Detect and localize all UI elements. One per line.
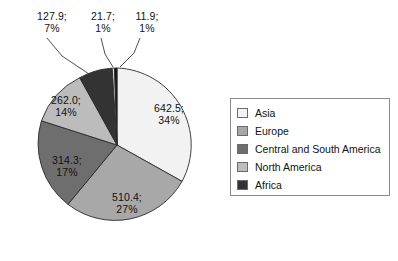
leader-line-middle-east	[120, 38, 140, 67]
legend-label-africa: Africa	[255, 179, 282, 191]
slice-label-middle-east-value: 11.9;	[135, 10, 158, 22]
slice-label-asia-percent: 34%	[139, 115, 199, 127]
legend-label-north-america: North America	[255, 161, 322, 173]
legend-item-north-america[interactable]: North America	[237, 158, 389, 176]
legend-label-europe: Europe	[255, 125, 289, 137]
slice-label-oceania-value: 21.7;	[91, 10, 115, 22]
legend-swatch-asia	[237, 108, 248, 118]
legend-label-asia: Asia	[255, 107, 275, 119]
leader-line-africa	[47, 38, 92, 76]
slice-label-north-america-percent: 14%	[36, 107, 96, 119]
slice-label-asia: 642.5; 34%	[139, 103, 199, 126]
legend: Asia Europe Central and South America No…	[230, 98, 390, 196]
slice-label-africa: 127.9; 7%	[24, 11, 80, 34]
legend-swatch-north-america	[237, 162, 248, 172]
legend-item-asia[interactable]: Asia	[237, 104, 389, 122]
slice-label-oceania-percent: 1%	[80, 23, 126, 35]
slice-label-africa-percent: 7%	[24, 23, 80, 35]
legend-swatch-africa	[237, 180, 248, 190]
slice-label-middle-east-percent: 1%	[124, 23, 170, 35]
slice-label-asia-value: 642.5;	[154, 102, 184, 114]
slice-label-csam-value: 314.3;	[52, 154, 82, 166]
slice-label-north-america: 262.0; 14%	[36, 95, 96, 118]
legend-item-central-and-south-america[interactable]: Central and South America	[237, 140, 389, 158]
legend-item-africa[interactable]: Africa	[237, 176, 389, 194]
legend-swatch-central-and-south-america	[237, 144, 248, 154]
slice-label-middle-east: 11.9; 1%	[124, 11, 170, 34]
slice-label-central-and-south-america: 314.3; 17%	[37, 155, 97, 178]
legend-label-central-and-south-america: Central and South America	[255, 143, 381, 155]
slice-label-europe: 510.4; 27%	[97, 192, 157, 215]
slice-label-csam-percent: 17%	[37, 167, 97, 179]
legend-swatch-europe	[237, 126, 248, 136]
slice-label-europe-value: 510.4;	[112, 191, 142, 203]
slice-label-oceania: 21.7; 1%	[80, 11, 126, 34]
leader-line-oceania	[101, 38, 113, 67]
pie-chart: 127.9; 7% 21.7; 1% 11.9; 1% 642.5; 34% 5…	[0, 0, 398, 261]
slice-label-europe-percent: 27%	[97, 204, 157, 216]
slice-label-north-america-value: 262.0;	[51, 94, 81, 106]
legend-item-europe[interactable]: Europe	[237, 122, 389, 140]
slice-label-africa-value: 127.9;	[37, 10, 67, 22]
